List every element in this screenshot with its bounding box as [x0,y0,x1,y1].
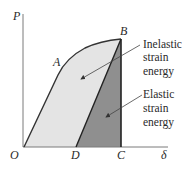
origin-label: O [10,148,19,162]
x-axis-label: δ [161,148,167,162]
inelastic-label-line1: Inelastic [143,38,182,50]
point-a-label: A [52,55,61,69]
inelastic-label-line3: energy [143,65,174,78]
elastic-label-line1: Elastic [143,88,174,100]
y-axis-label: P [12,9,21,23]
point-d-label: D [70,148,80,162]
elastic-label-line3: energy [143,116,174,129]
load-deflection-diagram: P δ O A B C D Inelastic strain energy El… [0,0,193,169]
elastic-label-line2: strain [143,102,169,114]
point-b-label: B [120,24,128,38]
point-c-label: C [117,148,126,162]
inelastic-label-line2: strain [143,51,169,63]
